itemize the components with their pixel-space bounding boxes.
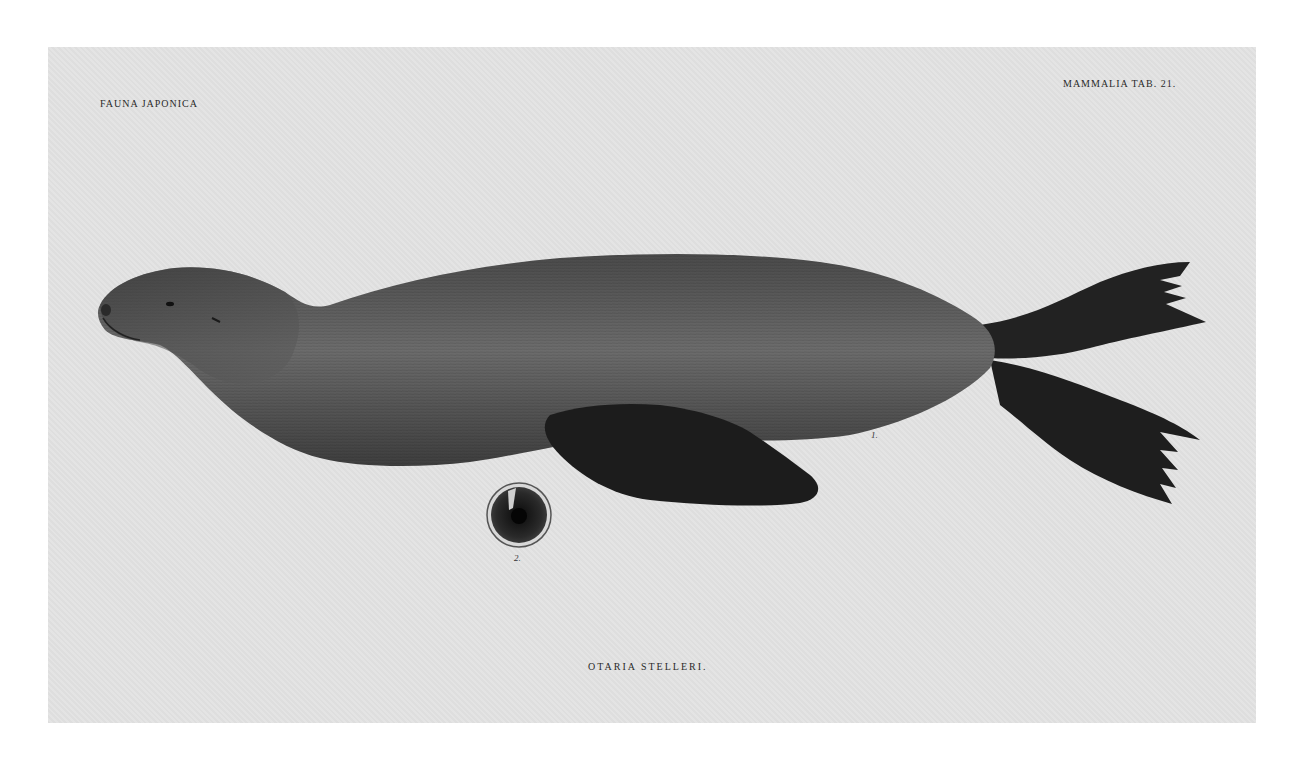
eye <box>166 302 174 306</box>
species-caption: OTARIA STELLERI. <box>588 661 708 672</box>
figure-2-label: 2. <box>514 553 521 563</box>
header-left-title: FAUNA JAPONICA <box>100 98 198 109</box>
snout <box>101 304 111 316</box>
sea-lion-illustration <box>0 0 1307 767</box>
rear-flipper-lower <box>990 360 1200 504</box>
rear-flipper-upper <box>980 262 1206 359</box>
eye-detail-figure <box>487 483 551 547</box>
figure-1-label: 1. <box>871 430 878 440</box>
header-right-plate-number: MAMMALIA TAB. 21. <box>1063 78 1176 89</box>
